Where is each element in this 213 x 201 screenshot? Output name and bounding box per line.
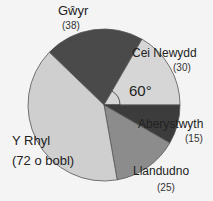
value-llandudno: (25) — [157, 182, 175, 193]
label-gwyr: Gŵyr — [58, 3, 88, 18]
label-aberystwyth: Aberystwyth — [138, 117, 203, 131]
label-y-rhyl: Y Rhyl — [12, 133, 50, 148]
label-cei-newydd: Cei Newydd — [132, 46, 197, 60]
label-llandudno: Llandudno — [133, 164, 189, 178]
value-gwyr: (38) — [62, 20, 80, 31]
angle-label: 60° — [129, 82, 152, 99]
value-aberystwyth: (15) — [185, 133, 203, 144]
value-y-rhyl: (72 o bobl) — [12, 153, 74, 168]
value-cei-newydd: (30) — [173, 62, 191, 73]
